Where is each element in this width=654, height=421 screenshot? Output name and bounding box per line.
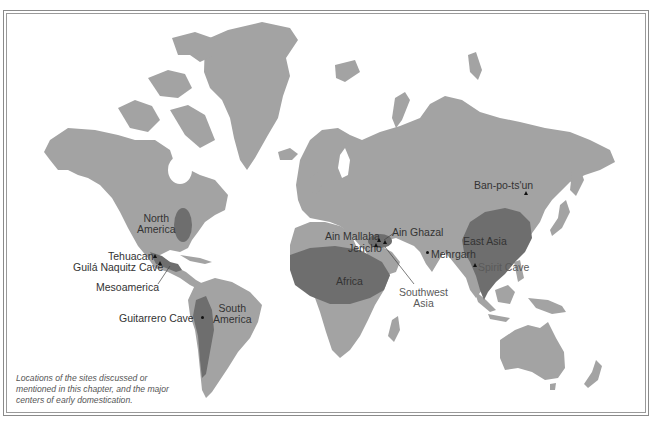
site-marker-spirit-cave [473,263,477,267]
caption-line-2: mentioned in this chapter, and the major [16,384,196,395]
label-north-america-line2: America [137,224,176,235]
label-site-guitarrero: Guitarrero Cave [119,313,194,324]
landmass-borneo [495,285,515,304]
landmass-madagascar [388,316,400,342]
landmass-new-guinea [528,298,566,314]
label-north-america: North America [137,213,176,235]
landmass-australia [500,322,565,380]
label-site-ban-po-ts-un: Ban-po-ts'un [474,180,533,191]
landmass-greenland [204,22,298,170]
label-site-guila-naquitz: Guilá Naquitz Cave [73,262,163,273]
caption-line-3: centers of early domestication. [16,395,196,406]
label-east-asia: East Asia [463,236,507,247]
landmass-caribbean [180,255,212,264]
label-southwest-asia: Southwest Asia [399,287,448,309]
site-marker-ain-ghazal [383,240,387,244]
site-marker-guitarrero [201,316,204,319]
landmass-java [488,314,510,322]
label-south-america: South America [213,303,252,325]
landmass-iceland [278,148,298,160]
site-marker-tehuacan [153,254,157,258]
label-site-mehrgarh: Mehrgarh [431,249,476,260]
landmass-arctic-islands-3 [118,100,160,132]
landmass-new-zealand [584,360,602,388]
center-north-america [174,208,192,242]
site-marker-ain-mallaha [377,238,381,242]
label-southwest-asia-line2: Asia [399,298,448,309]
landmass-severnaya [468,52,482,80]
landmass-arctic-islands-4 [170,105,215,148]
site-marker-ban-po-ts-un [524,191,528,195]
map-caption: Locations of the sites discussed or ment… [16,373,196,406]
site-marker-guila-naquitz [158,261,162,265]
label-africa: Africa [336,276,363,287]
world-map [0,0,654,421]
label-site-spirit-cave: Spirit Cave [478,262,529,273]
landmass-svalbard [335,60,360,82]
caption-line-1: Locations of the sites discussed or [16,373,196,384]
landmass-novaya-zemlya [392,92,410,128]
label-south-america-line2: America [213,314,252,325]
site-marker-jericho [374,243,378,247]
site-marker-mehrgarh [426,251,429,254]
label-site-ain-ghazal: Ain Ghazal [392,227,443,238]
hudson-bay [168,156,192,184]
landmass-japan [550,200,570,236]
landmass-arctic-islands-2 [148,70,192,98]
label-site-ain-mallaha: Ain Mallaha [325,231,380,242]
landmass-tasmania [550,383,556,390]
landmass-north-america [44,128,228,262]
label-mesoamerica: Mesoamerica [96,282,159,293]
